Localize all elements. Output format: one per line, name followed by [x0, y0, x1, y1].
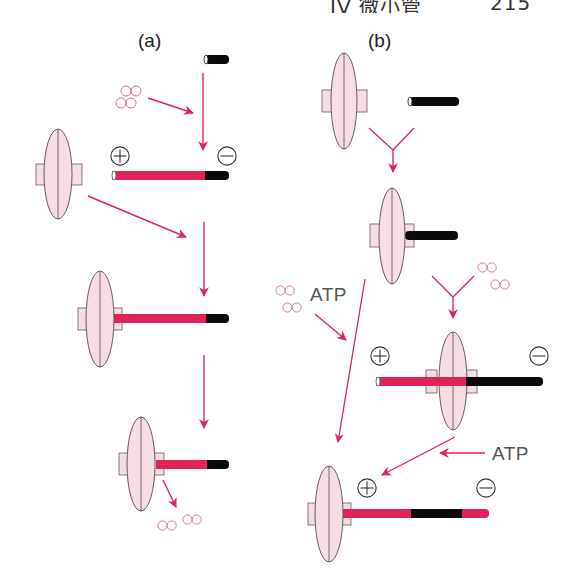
- seed-filament-b: [408, 97, 459, 106]
- tubulin-dimer-icon: [116, 98, 136, 108]
- minus-end-icon: [530, 347, 548, 365]
- tubulin-dimer-icon: [283, 303, 301, 312]
- panel-b: [276, 53, 548, 562]
- arrow-to-final: [382, 437, 455, 475]
- arrow-long-diagonal: [338, 279, 365, 442]
- minus-end-icon: [477, 479, 495, 497]
- y-join-1: [369, 128, 414, 172]
- tubulin-dimer-icon: [478, 263, 496, 272]
- diagram-svg: [0, 0, 576, 583]
- organizer-complex-free: [36, 129, 82, 219]
- arrow-release-dimers: [163, 480, 176, 507]
- plus-end-icon: [111, 147, 129, 165]
- arrow-dimers-atp: [315, 314, 346, 340]
- tubulin-dimer-icon: [491, 280, 509, 289]
- tubulin-dimer-icon: [183, 515, 201, 524]
- final-filament-b: [308, 466, 489, 562]
- tubulin-dimer-icon: [158, 521, 176, 530]
- plus-end-icon: [358, 479, 376, 497]
- capped-filament-a1: [78, 271, 229, 367]
- panel-a: [36, 55, 236, 530]
- minus-end-icon: [218, 147, 236, 165]
- tubulin-dimer-icon: [276, 286, 294, 295]
- capped-filament-a2: [119, 417, 229, 511]
- arrow-organizer-to-filament: [88, 196, 186, 237]
- plus-end-icon: [371, 347, 389, 365]
- diagram-root: IV 微小管 215 (a) (b) ATP ATP: [0, 0, 576, 583]
- organizer-on-filament-b: [376, 332, 543, 430]
- arrow-dimers-to-seed: [148, 98, 193, 113]
- capped-seed-b: [370, 188, 458, 284]
- tubulin-dimer-icon: [121, 86, 141, 96]
- organizer-complex-b-free: [322, 53, 367, 149]
- seed-filament-a: [204, 55, 229, 64]
- y-join-2: [432, 276, 474, 318]
- growing-filament-a: [112, 171, 229, 180]
